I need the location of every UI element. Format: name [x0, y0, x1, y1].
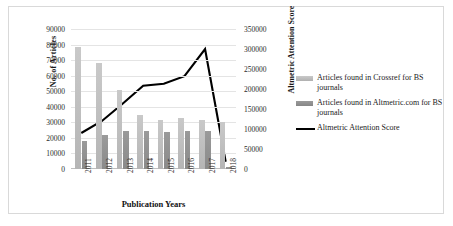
- right-y-tick-label: 150000: [244, 105, 267, 114]
- right-y-tick-label: 200000: [244, 85, 267, 94]
- chart-legend: Articles found in Crossref for BS journa…: [296, 73, 446, 138]
- x-tick-label: 2018: [229, 158, 238, 173]
- bar-group: [112, 29, 133, 169]
- x-tick-label: 2012: [105, 158, 114, 173]
- left-y-tick-label: 0: [61, 165, 65, 174]
- bar-crossref: [178, 118, 184, 169]
- x-axis: 20112012201320142015201620172018: [71, 171, 236, 201]
- legend-swatch-crossref-icon: [296, 76, 313, 81]
- right-y-tick-label: 350000: [244, 25, 267, 34]
- bar-group: [154, 29, 175, 169]
- bar-group: [174, 29, 195, 169]
- chart-figure: 0100002000030000400005000060000700008000…: [0, 0, 453, 226]
- left-y-tick-label: 10000: [46, 149, 65, 158]
- right-y-tick-label: 0: [244, 165, 248, 174]
- left-y-axis: 0100002000030000400005000060000700008000…: [9, 29, 69, 169]
- bar-crossref: [75, 47, 81, 169]
- right-y-axis-title: Altmetric Attention Score: [287, 0, 296, 104]
- legend-item-crossref: Articles found in Crossref for BS journa…: [296, 73, 446, 93]
- x-tick-label: 2017: [208, 158, 217, 173]
- legend-item-altmetric-articles: Articles found in Altmetric.com for BS j…: [296, 98, 446, 118]
- plot-area: [71, 29, 236, 169]
- bar-group: [215, 29, 236, 169]
- right-y-tick-label: 300000: [244, 45, 267, 54]
- bar-crossref: [199, 120, 205, 169]
- x-tick-label: 2016: [187, 158, 196, 173]
- chart-border-box: 0100002000030000400005000060000700008000…: [8, 6, 444, 214]
- x-tick-label: 2011: [84, 158, 93, 173]
- legend-label-attention-score: Altmetric Attention Score: [317, 123, 400, 133]
- right-y-tick-label: 250000: [244, 65, 267, 74]
- legend-label-crossref: Articles found in Crossref for BS journa…: [317, 73, 446, 93]
- x-tick-label: 2015: [167, 158, 176, 173]
- right-y-tick-label: 100000: [244, 125, 267, 134]
- legend-swatch-altmetric-icon: [296, 101, 313, 106]
- right-y-tick-label: 50000: [244, 145, 263, 154]
- left-y-axis-title: No. of Articles: [49, 12, 58, 112]
- bar-group: [92, 29, 113, 169]
- x-axis-title: Publication Years: [71, 199, 236, 209]
- legend-label-altmetric-articles: Articles found in Altmetric.com for BS j…: [317, 98, 446, 118]
- x-tick-label: 2013: [126, 158, 135, 173]
- bar-crossref: [158, 120, 164, 169]
- bar-crossref: [96, 63, 102, 169]
- x-tick-label: 2014: [146, 158, 155, 173]
- bar-group: [71, 29, 92, 169]
- left-y-tick-label: 20000: [46, 133, 65, 142]
- legend-item-attention-score: Altmetric Attention Score: [296, 123, 446, 133]
- legend-swatch-line-icon: [296, 128, 315, 130]
- bar-group: [133, 29, 154, 169]
- left-y-tick-label: 30000: [46, 118, 65, 127]
- bar-group: [195, 29, 216, 169]
- bar-crossref: [220, 122, 226, 169]
- bar-crossref: [137, 115, 143, 169]
- bar-crossref: [117, 90, 123, 169]
